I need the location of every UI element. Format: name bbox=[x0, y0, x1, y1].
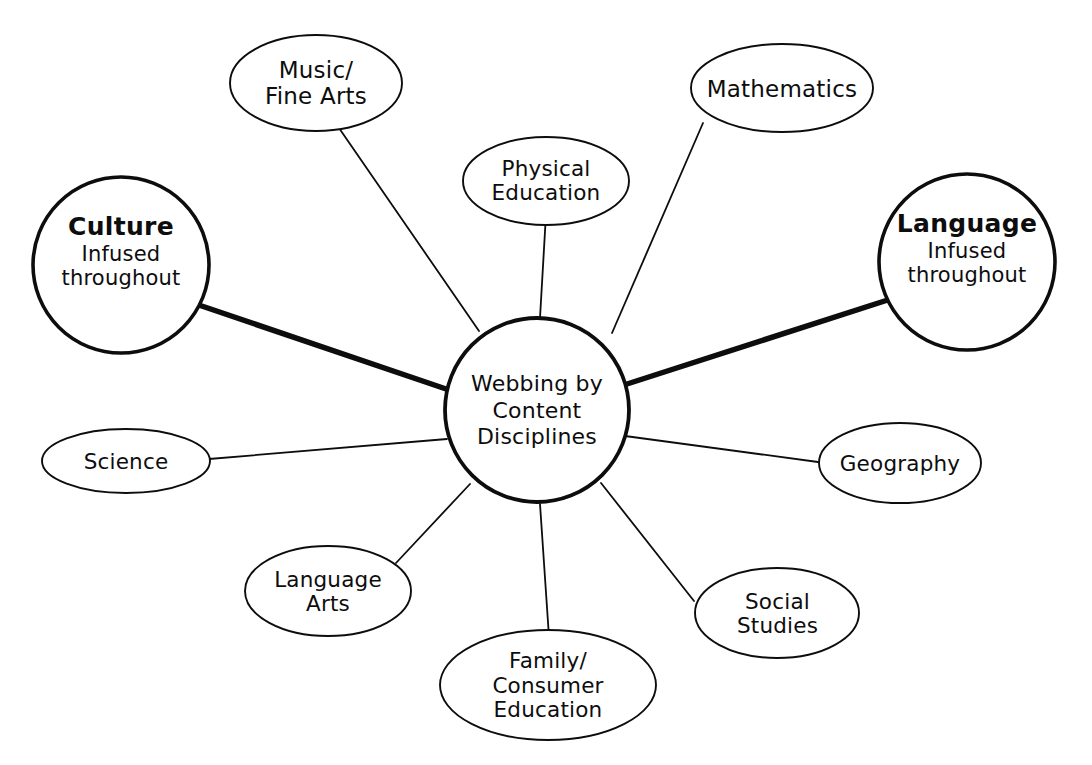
connector-music-fine-arts-to-hub bbox=[339, 128, 479, 331]
concept-web-diagram: Webbing by Content Disciplines Culture I… bbox=[0, 0, 1092, 765]
diagram-canvas bbox=[0, 0, 1092, 765]
music-fine-arts-outline[interactable] bbox=[230, 35, 402, 131]
node-outlines bbox=[33, 35, 1055, 740]
connector-family-consumer-education-to-hub bbox=[540, 504, 549, 637]
social-studies-outline[interactable] bbox=[695, 568, 859, 658]
family-consumer-education-outline[interactable] bbox=[440, 630, 656, 740]
connector-geography-to-hub bbox=[625, 436, 818, 462]
hub-outline[interactable] bbox=[445, 318, 629, 502]
connector-social-studies-to-hub bbox=[601, 483, 694, 601]
language-arts-outline[interactable] bbox=[245, 546, 411, 636]
physical-education-outline[interactable] bbox=[463, 137, 629, 225]
connector-language-arts-to-hub bbox=[396, 484, 470, 563]
culture-outline[interactable] bbox=[33, 177, 209, 353]
connector-mathematics-to-hub bbox=[612, 123, 703, 333]
mathematics-outline[interactable] bbox=[691, 44, 873, 132]
connector-science-to-hub bbox=[209, 439, 447, 459]
connector-physical-education-to-hub bbox=[540, 214, 546, 318]
language-outline[interactable] bbox=[879, 174, 1055, 350]
geography-outline[interactable] bbox=[819, 423, 981, 503]
connector-culture-to-hub bbox=[187, 301, 452, 391]
connector-language-to-hub bbox=[627, 297, 897, 384]
science-outline[interactable] bbox=[42, 429, 210, 493]
